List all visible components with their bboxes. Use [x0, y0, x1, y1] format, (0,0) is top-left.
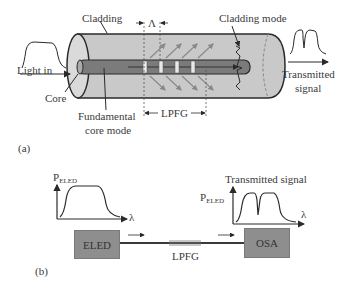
- panel-label-a: (a): [18, 142, 30, 154]
- cladding-label: Cladding: [82, 12, 122, 24]
- period-label: Λ: [148, 17, 156, 29]
- fiber-line: [118, 235, 244, 246]
- lpfg-label-a: LPFG: [161, 107, 188, 119]
- fundamental-core-mode-label-1: Fundamental: [78, 110, 135, 122]
- cladding-mode-label: Cladding mode: [219, 12, 287, 24]
- osa-axis-x-label: λ: [301, 208, 306, 220]
- eled-box: ELED: [74, 230, 120, 259]
- core-label: Core: [45, 92, 66, 104]
- eled-axis-x-label: λ: [129, 211, 134, 223]
- osa-spectrum: [233, 187, 304, 224]
- osa-title-label: Transmitted signal: [225, 173, 307, 185]
- panel-label-b: (b): [35, 265, 48, 277]
- fiber-cylinder: [65, 21, 285, 118]
- light-in-label: Light in: [17, 64, 52, 76]
- transmitted-spectrum-a: [288, 30, 328, 62]
- lpfg-label-b: LPFG: [172, 250, 199, 262]
- eled-axis-y-label: PELED: [53, 171, 77, 187]
- transmitted-label-2: signal: [295, 82, 321, 94]
- fundamental-core-mode-label-2: core mode: [85, 124, 131, 136]
- diagram-graphics: [0, 0, 350, 292]
- eled-spectrum: [57, 185, 127, 219]
- osa-axis-y-label: PELED: [200, 191, 224, 207]
- osa-label: OSA: [245, 237, 289, 249]
- eled-label: ELED: [75, 239, 119, 251]
- osa-box: OSA: [244, 228, 290, 258]
- transmitted-label-1: Transmitted: [282, 68, 335, 80]
